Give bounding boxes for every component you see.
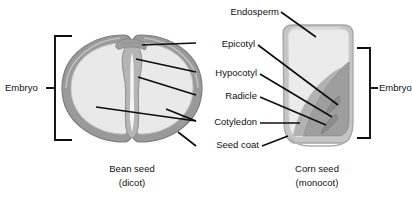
caption-bean-name: Bean seed <box>109 163 154 174</box>
caption-corn-type: (monocot) <box>296 177 339 188</box>
bracket-right-shape <box>357 48 370 138</box>
seed-diagram-page: Endosperm Epicotyl Hypocotyl Radicle Cot… <box>0 0 412 197</box>
embryo-bracket-right <box>357 48 378 138</box>
label-embryo-right: Embryo <box>379 82 412 93</box>
bean-seed-illustration <box>62 35 202 142</box>
leader-seedcoat-corn <box>262 136 288 146</box>
label-cotyledon: Cotyledon <box>214 116 257 127</box>
label-epicotyl: Epicotyl <box>222 38 255 49</box>
label-seed-coat: Seed coat <box>216 139 259 150</box>
label-hypocotyl: Hypocotyl <box>215 67 257 78</box>
caption-bean-type: (dicot) <box>119 177 145 188</box>
corn-seed-illustration <box>283 25 353 146</box>
seed-anatomy-diagram: Endosperm Epicotyl Hypocotyl Radicle Cot… <box>0 0 412 197</box>
leader-seedcoat-bean <box>178 132 196 146</box>
caption-corn-name: Corn seed <box>295 163 339 174</box>
label-endosperm: Endosperm <box>230 6 279 17</box>
label-embryo-left: Embryo <box>5 82 38 93</box>
label-radicle: Radicle <box>225 90 257 101</box>
